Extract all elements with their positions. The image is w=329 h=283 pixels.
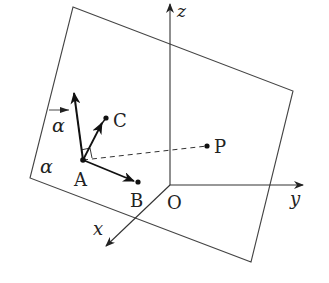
diagram-canvas: z y x O α α A B C P [0, 0, 329, 283]
point-c [103, 115, 108, 120]
dashed-segment-ap [83, 146, 207, 160]
plane-alpha [30, 7, 293, 262]
vector-ab [83, 160, 134, 181]
normal-vector-label: α [52, 114, 65, 136]
vector-ac [83, 123, 102, 160]
point-c-label: C [113, 110, 127, 131]
y-axis-label: y [289, 188, 301, 209]
z-axis-label: z [176, 1, 187, 21]
point-a-label: A [73, 169, 88, 190]
point-p-label: P [214, 136, 226, 157]
plane-label: α [40, 155, 53, 177]
x-axis-label: x [93, 218, 103, 239]
point-a [80, 157, 86, 163]
point-p [204, 143, 209, 148]
normal-vector [74, 93, 83, 160]
origin-label: O [167, 192, 182, 213]
point-b-label: B [130, 190, 143, 211]
point-b [135, 179, 140, 184]
